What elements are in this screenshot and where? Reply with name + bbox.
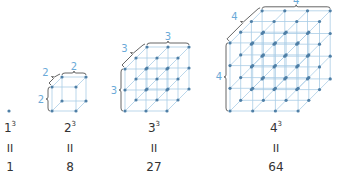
lattice-dot xyxy=(318,20,321,23)
dimension-label-width: 3 xyxy=(165,31,171,42)
lattice-dot xyxy=(84,75,87,78)
lattice-dot xyxy=(307,99,310,102)
cube-value-2: 8 xyxy=(66,161,74,173)
lattice-dot xyxy=(134,98,137,101)
equals-sign-1: II xyxy=(7,143,14,154)
lattice-dot xyxy=(285,31,288,34)
lattice-dot xyxy=(144,88,147,91)
power-expression-3: 33 xyxy=(148,122,160,134)
power-expression-4: 43 xyxy=(270,122,282,134)
lattice-dot xyxy=(228,87,231,90)
power-expression-1: 13 xyxy=(4,122,16,134)
lattice-dot xyxy=(307,76,310,79)
lattice-dot xyxy=(239,76,242,79)
lattice-dot xyxy=(165,109,168,112)
equals-sign-4: II xyxy=(273,143,280,154)
lattice-dot xyxy=(60,99,63,102)
dimension-label-height: 3 xyxy=(111,85,117,96)
lattice-dot xyxy=(74,85,77,88)
dimension-label-width: 4 xyxy=(293,0,299,6)
lattice-dot xyxy=(274,41,277,44)
lattice-dot xyxy=(285,53,288,56)
lattice-dot xyxy=(262,53,265,56)
power-expression-2: 23 xyxy=(64,122,76,134)
cube-2: 222 xyxy=(38,61,88,113)
lattice-dot xyxy=(318,88,321,91)
grid-lines xyxy=(230,11,330,111)
lattice-dot xyxy=(84,99,87,102)
lattice-dot xyxy=(261,9,264,12)
grid-lines xyxy=(52,77,86,111)
lattice-dot xyxy=(318,65,321,68)
lattice-dot xyxy=(134,56,137,59)
lattice-dot xyxy=(228,41,231,44)
lattice-dot xyxy=(187,66,190,69)
lattice-dot xyxy=(262,31,265,34)
dimension-label-width: 2 xyxy=(71,61,77,72)
lattice-dot xyxy=(155,98,158,101)
lattice-dot xyxy=(318,43,321,46)
lattice-dot xyxy=(50,109,53,112)
lattice-dot xyxy=(134,77,137,80)
lattice-dot xyxy=(144,67,147,70)
dimension-label-depth: 3 xyxy=(121,43,127,54)
lattice-dot xyxy=(228,64,231,67)
lattice-dot xyxy=(251,41,254,44)
lattice-dot xyxy=(239,53,242,56)
cube-numbers-diagram: 222333444 xyxy=(0,0,337,181)
cube-value-1: 1 xyxy=(6,161,14,173)
cube-1 xyxy=(7,109,10,112)
lattice-dot xyxy=(187,87,190,90)
lattice-dot xyxy=(228,109,231,112)
lattice-dot xyxy=(176,77,179,80)
lattice-dot xyxy=(262,76,265,79)
lattice-dot xyxy=(274,87,277,90)
lattice-dot xyxy=(307,53,310,56)
brace-height xyxy=(46,87,50,111)
cube-value-3: 27 xyxy=(146,161,161,173)
lattice-dot xyxy=(123,88,126,91)
lattice-dot xyxy=(329,55,332,58)
lattice-dot xyxy=(123,67,126,70)
lattice-dot xyxy=(307,31,310,34)
lattice-dot xyxy=(295,20,298,23)
lattice-dot xyxy=(297,87,300,90)
lattice-dot xyxy=(274,64,277,67)
cube-value-4: 64 xyxy=(268,161,283,173)
lattice-dot xyxy=(155,56,158,59)
lattice-dot xyxy=(165,88,168,91)
lattice-dot xyxy=(176,98,179,101)
lattice-dot xyxy=(123,109,126,112)
lattice-dot xyxy=(239,99,242,102)
lattice-dot xyxy=(306,9,309,12)
dimension-label-height: 2 xyxy=(38,94,44,105)
cube-4: 444 xyxy=(216,0,332,113)
dimension-label-depth: 4 xyxy=(231,11,237,22)
lattice-dot xyxy=(283,9,286,12)
lattice-dot xyxy=(239,31,242,34)
lattice-dot xyxy=(7,109,10,112)
lattice-dot xyxy=(251,64,254,67)
lattice-dot xyxy=(155,77,158,80)
equals-sign-3: II xyxy=(151,143,158,154)
dimension-label-depth: 2 xyxy=(42,67,48,78)
equals-sign-2: II xyxy=(67,143,74,154)
lattice-dot xyxy=(60,75,63,78)
lattice-dot xyxy=(145,45,148,48)
lattice-dot xyxy=(187,45,190,48)
brace-depth xyxy=(49,74,60,85)
lattice-dot xyxy=(50,85,53,88)
cube-3: 333 xyxy=(111,31,191,113)
lattice-dot xyxy=(329,77,332,80)
lattice-dot xyxy=(250,20,253,23)
lattice-dot xyxy=(274,109,277,112)
lattice-dot xyxy=(329,32,332,35)
lattice-dot xyxy=(176,56,179,59)
brace-height xyxy=(224,43,228,111)
lattice-dot xyxy=(251,87,254,90)
lattice-dot xyxy=(285,99,288,102)
lattice-dot xyxy=(329,9,332,12)
lattice-dot xyxy=(297,41,300,44)
lattice-dot xyxy=(297,64,300,67)
lattice-dot xyxy=(165,67,168,70)
